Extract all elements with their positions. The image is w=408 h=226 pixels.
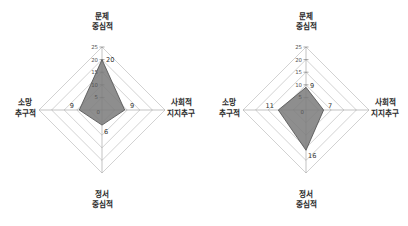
tick-label-15: 15 <box>91 69 98 75</box>
axis-label-right-line1: 사회적 <box>171 97 192 107</box>
axis-label-left-line2-right: 추구적 <box>219 108 240 118</box>
radar-plot-left: 5 10 15 20 25 0 20 9 6 9 문제 중심적 사회적 지지추구… <box>0 0 204 226</box>
axis-label-bottom-line2-right: 중심적 <box>296 199 317 209</box>
value-label-top: 20 <box>106 56 114 64</box>
value-label-top-right: 9 <box>310 82 314 90</box>
radar-chart-panel-left: 5 10 15 20 25 0 20 9 6 9 문제 중심적 사회적 지지추구… <box>0 0 204 226</box>
axis-label-right-line1-right: 사회적 <box>375 97 396 107</box>
axis-label-bottom-line1: 정서 <box>95 189 109 199</box>
radar-chart-figure: 5 10 15 20 25 0 20 9 6 9 문제 중심적 사회적 지지추구… <box>0 0 408 226</box>
tick-label-0: 0 <box>97 109 101 115</box>
axis-label-right-line2-right: 지지추구 <box>371 108 399 118</box>
axis-label-left-line1: 소망 <box>18 97 32 107</box>
tick-label-5: 5 <box>95 94 98 100</box>
tick-label-25-right: 25 <box>295 44 302 50</box>
axis-label-right-line2: 지지추구 <box>167 108 195 118</box>
value-label-right-right: 7 <box>328 102 332 110</box>
axis-label-top-line2: 중심적 <box>92 21 113 31</box>
axis-label-top-line1: 문제 <box>95 11 109 21</box>
value-label-right: 9 <box>130 102 134 110</box>
axis-label-top-line1-right: 문제 <box>299 11 313 21</box>
tick-label-10-right: 10 <box>295 82 302 88</box>
tick-label-0-right: 0 <box>301 109 305 115</box>
value-label-left-right: 11 <box>266 102 274 110</box>
value-label-bottom-right: 16 <box>308 152 316 160</box>
series-polygon-left <box>79 60 124 126</box>
axis-label-bottom-line2: 중심적 <box>92 199 113 209</box>
tick-label-10: 10 <box>91 82 98 88</box>
axis-label-left-line2: 추구적 <box>15 108 36 118</box>
axis-label-top-line2-right: 중심적 <box>296 21 317 31</box>
tick-label-20-right: 20 <box>295 57 302 63</box>
value-label-bottom: 6 <box>104 128 108 136</box>
axis-label-bottom-line1-right: 정서 <box>299 189 313 199</box>
value-label-left: 9 <box>70 102 74 110</box>
tick-label-25: 25 <box>91 44 98 50</box>
axis-label-left-line1-right: 소망 <box>222 97 236 107</box>
tick-label-15-right: 15 <box>295 69 302 75</box>
radar-chart-panel-right: 5 10 15 20 25 0 9 7 16 11 문제 중심적 사회적 지지추… <box>204 0 408 226</box>
radar-plot-right: 5 10 15 20 25 0 9 7 16 11 문제 중심적 사회적 지지추… <box>204 0 408 226</box>
tick-label-5-right: 5 <box>299 94 302 100</box>
tick-label-20: 20 <box>91 57 98 63</box>
